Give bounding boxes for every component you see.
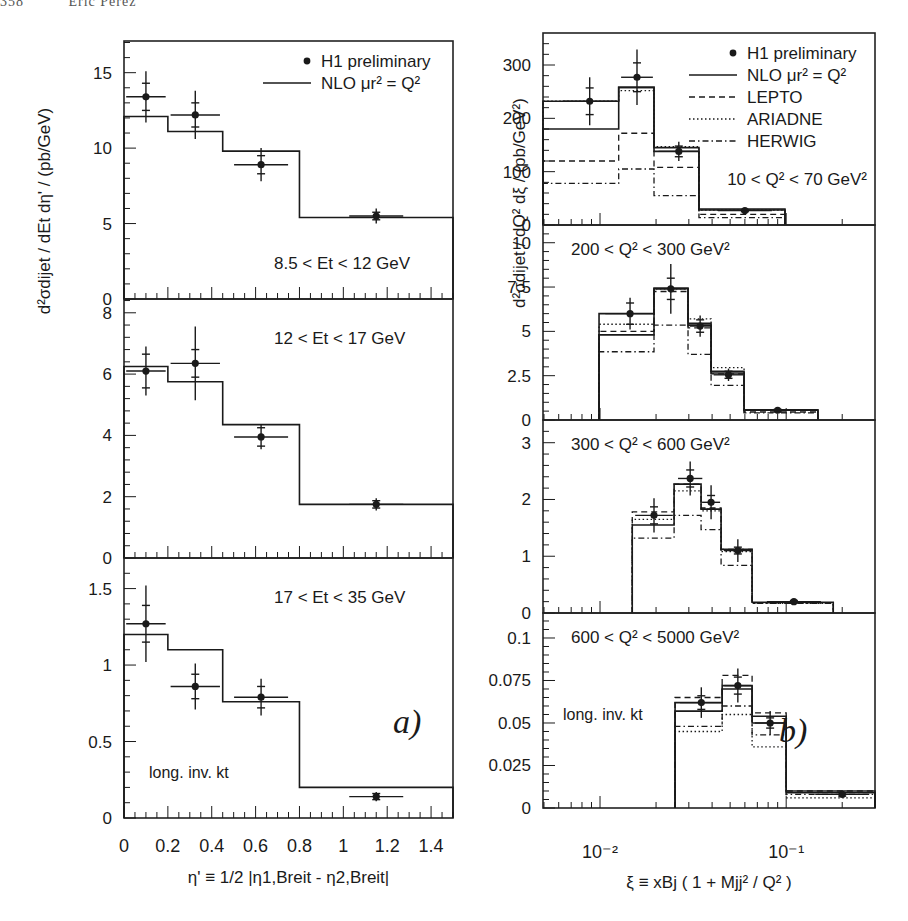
- x-tick-label: 0.4: [199, 836, 224, 856]
- data-point: [680, 687, 722, 718]
- panel-left-3: 00.511.517 < Et < 35 GeV: [88, 558, 453, 828]
- y-tick-label: 0.025: [488, 756, 531, 775]
- legend-label: NLO μr² = Q²: [747, 66, 846, 85]
- panel-left-2: 0246812 < Et < 17 GeV: [103, 299, 453, 568]
- panel-right-3: 0123300 < Q² < 600 GeV²: [522, 420, 875, 623]
- data-point: [234, 148, 288, 181]
- legend-label: ARIADNE: [747, 110, 823, 129]
- figure-a: 0510158.5 < Et < 12 GeV0246812 < Et < 17…: [35, 41, 453, 887]
- panel-range-label: 200 < Q² < 300 GeV²: [571, 240, 730, 259]
- data-point: [635, 498, 673, 532]
- figure-label: b): [779, 712, 807, 750]
- panel-range-label: 17 < Et < 35 GeV: [274, 588, 406, 607]
- y-tick-label: 0.075: [488, 671, 531, 690]
- x-tick-label: 0.6: [243, 836, 268, 856]
- y-tick-label: 1.5: [88, 580, 112, 599]
- series-ariadne: [632, 491, 833, 613]
- x-tick-label: 0: [119, 836, 129, 856]
- figure-b: 010020030010 < Q² < 70 GeV²02.557.510200…: [488, 33, 875, 892]
- panel-right-4: 00.0250.050.0750.1600 < Q² < 5000 GeV²: [488, 613, 875, 818]
- legend-label: NLO μr² = Q²: [321, 74, 420, 93]
- data-point: [563, 77, 617, 125]
- legend-label: H1 preliminary: [321, 52, 431, 71]
- panel-range-label: 10 < Q² < 70 GeV²: [727, 170, 867, 189]
- data-point: [234, 425, 288, 450]
- data-point: [815, 791, 869, 798]
- y-tick-label: 2: [103, 488, 112, 507]
- y-tick-label: 0.5: [88, 733, 112, 752]
- x-tick-label: 0.8: [287, 836, 312, 856]
- data-point: [655, 264, 686, 314]
- y-tick-label: 1: [522, 547, 531, 566]
- data-point: [171, 327, 220, 401]
- y-tick-label: 15: [93, 64, 112, 83]
- legend-item: NLO μr² = Q²: [689, 66, 846, 85]
- y-tick-label: 0: [522, 411, 531, 430]
- y-tick-label: 0: [103, 549, 112, 568]
- x-tick-label: 0.2: [155, 836, 180, 856]
- x-tick-label: 1.4: [419, 836, 444, 856]
- series-nlo: [632, 484, 833, 613]
- legend-item: ARIADNE: [689, 110, 823, 129]
- legend-item: HERWIG: [689, 132, 817, 151]
- y-tick-label: 0: [522, 799, 531, 818]
- figure-label: a): [393, 703, 421, 741]
- series-nlo-upper: [543, 87, 785, 225]
- data-point: [718, 207, 772, 214]
- y-tick-label: 0: [103, 809, 112, 828]
- series-nlo: [675, 689, 875, 808]
- data-point: [349, 792, 403, 801]
- y-tick-label: 2.5: [507, 367, 531, 386]
- figure: 0510158.5 < Et < 12 GeV0246812 < Et < 17…: [0, 0, 908, 921]
- y-axis-label: d²σdijet / dEt dη' / (pb/GeV): [35, 108, 54, 315]
- data-point: [724, 539, 752, 562]
- series-nlo-upper: [675, 686, 875, 808]
- data-point: [126, 71, 165, 122]
- data-point: [621, 50, 653, 105]
- y-tick-label: 0.1: [507, 629, 531, 648]
- data-point: [659, 142, 699, 161]
- x-tick-label: 1.2: [375, 836, 400, 856]
- y-tick-label: 5: [103, 215, 112, 234]
- series-nlo: [543, 87, 785, 225]
- panel-range-label: 300 < Q² < 600 GeV²: [571, 435, 730, 454]
- data-point: [349, 498, 403, 510]
- series-lepto: [632, 484, 833, 613]
- corner-note: long. inv. kt: [563, 706, 643, 723]
- legend-label: H1 preliminary: [747, 44, 857, 63]
- y-tick-label: 4: [103, 426, 112, 445]
- y-tick-label: 2: [522, 490, 531, 509]
- y-tick-label: 10: [93, 139, 112, 158]
- legend-item: LEPTO: [689, 88, 802, 107]
- data-point: [234, 679, 288, 716]
- y-tick-label: 300: [503, 56, 531, 75]
- x-axis-label: ξ ≡ xBj ( 1 + Mjj² / Q² ): [626, 873, 791, 892]
- panel-right-2: 02.557.510200 < Q² < 300 GeV²: [507, 225, 875, 430]
- data-point: [349, 208, 403, 223]
- legend-item: H1 preliminary: [304, 52, 431, 71]
- x-tick-label: 1: [338, 836, 348, 856]
- legend-item: NLO μr² = Q²: [263, 74, 420, 93]
- legend: H1 preliminaryNLO μr² = Q²: [263, 52, 431, 93]
- legend-label: LEPTO: [747, 88, 802, 107]
- legend-item: H1 preliminary: [730, 44, 857, 63]
- panel-range-label: 8.5 < Et < 12 GeV: [274, 254, 411, 273]
- series-herwig: [599, 325, 818, 420]
- data-point: [724, 669, 751, 703]
- x-tick-label: 10⁻¹: [768, 842, 804, 862]
- legend: H1 preliminaryNLO μr² = Q²LEPTOARIADNEHE…: [689, 44, 857, 151]
- y-tick-label: 1: [103, 656, 112, 675]
- y-tick-label: 5: [522, 322, 531, 341]
- x-axis-label: η' ≡ 1/2 |η1,Breit - η2,Breit|: [188, 868, 390, 887]
- panel-range-label: 600 < Q² < 5000 GeV²: [571, 628, 740, 647]
- series-nlo: [124, 366, 453, 558]
- series-herwig: [632, 515, 833, 613]
- y-tick-label: 0: [522, 604, 531, 623]
- data-point: [702, 485, 720, 519]
- y-tick-label: 6: [103, 365, 112, 384]
- data-point: [767, 598, 821, 605]
- data-point: [126, 347, 165, 396]
- y-axis-label: d²σdijet / dQ² dξ / (pb/GeV²): [510, 98, 529, 308]
- x-tick-label: 10⁻²: [582, 842, 618, 862]
- panel-right-1: 010020030010 < Q² < 70 GeV²: [503, 33, 875, 235]
